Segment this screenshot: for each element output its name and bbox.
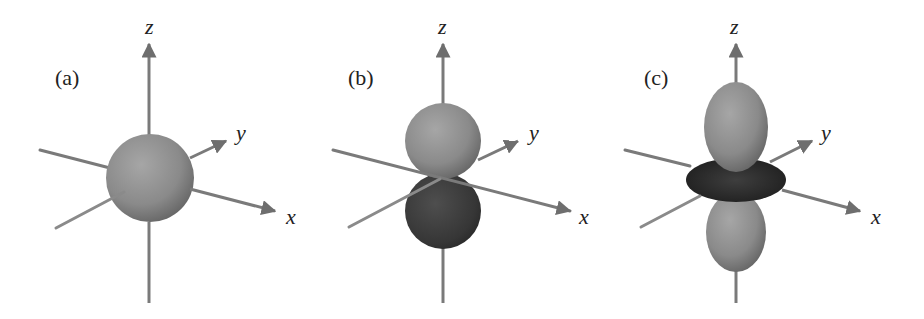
x-axis-back: [40, 150, 110, 168]
axis-label-x: x: [870, 204, 881, 229]
y-axis-front: [56, 192, 124, 228]
panel-b: (b) z y x: [333, 14, 589, 303]
d-orbital-upper-lobe: [704, 82, 768, 172]
panel-label-a: (a): [55, 65, 79, 90]
axis-label-z: z: [729, 14, 739, 39]
d-orbital-lower-lobe: [706, 192, 766, 272]
s-orbital-sphere: [106, 134, 194, 222]
y-axis: [478, 141, 518, 160]
p-orbital-upper-lobe: [405, 103, 481, 179]
axis-label-x: x: [578, 204, 589, 229]
axis-label-z: z: [437, 14, 447, 39]
y-axis: [770, 141, 812, 162]
axis-label-z: z: [144, 14, 154, 39]
x-axis: [782, 190, 860, 211]
axis-label-x: x: [285, 204, 296, 229]
y-axis-front: [641, 196, 700, 227]
panel-a: (a) z y x: [40, 14, 296, 303]
y-axis: [190, 141, 226, 158]
axis-label-y: y: [527, 120, 539, 145]
panel-label-c: (c): [644, 65, 668, 90]
orbital-figure: (a) z y x (b) z y x (c) z y x: [0, 0, 924, 319]
axis-label-y: y: [234, 120, 246, 145]
x-axis: [190, 189, 275, 211]
panel-label-b: (b): [348, 65, 374, 90]
panel-c: (c) z y x: [625, 14, 881, 303]
axis-label-y: y: [819, 120, 831, 145]
x-axis-back: [625, 150, 690, 166]
